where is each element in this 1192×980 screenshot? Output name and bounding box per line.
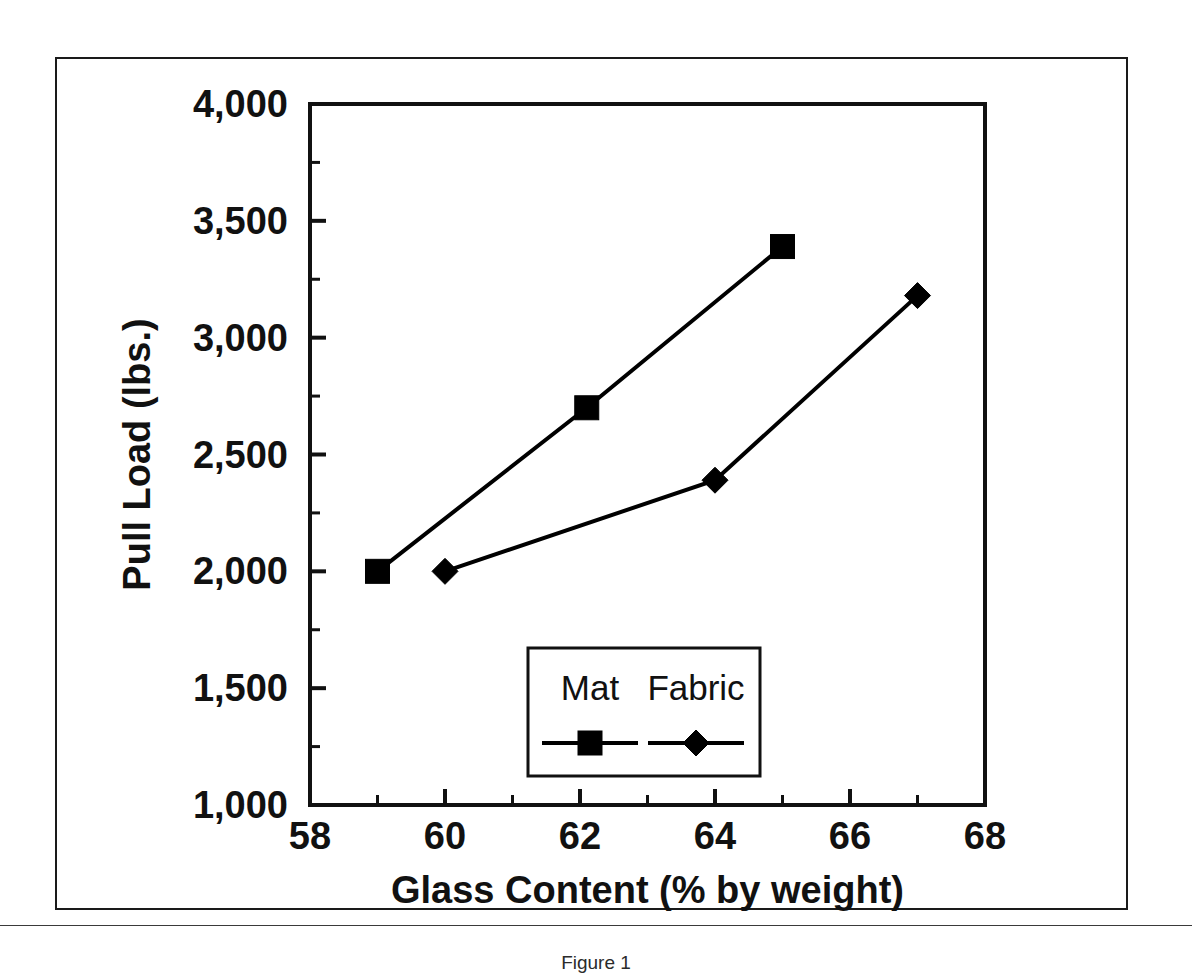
- legend-marker-mat: [578, 731, 602, 755]
- y-axis-tick-label: 2,000: [193, 550, 288, 592]
- data-point-fabric: [432, 558, 458, 584]
- x-axis-tick-label: 68: [964, 815, 1006, 857]
- caption-divider-line: [0, 925, 1192, 926]
- y-axis-tick-label: 2,500: [193, 434, 288, 476]
- x-axis-title: Glass Content (% by weight): [391, 869, 904, 911]
- data-point-mat: [366, 559, 390, 583]
- y-axis-tick-label: 1,000: [193, 784, 288, 826]
- figure-caption: Figure 1: [0, 952, 1192, 974]
- y-axis-tick-label: 1,500: [193, 667, 288, 709]
- data-point-mat: [771, 235, 795, 259]
- legend-label-fabric: Fabric: [647, 668, 744, 707]
- y-axis-tick-label: 4,000: [193, 83, 288, 125]
- legend-label-mat: Mat: [561, 668, 620, 707]
- data-point-mat: [575, 396, 599, 420]
- figure-root: 1,0001,5002,0002,5003,0003,5004,00058606…: [0, 0, 1192, 980]
- line-chart: 1,0001,5002,0002,5003,0003,5004,00058606…: [0, 0, 1192, 980]
- y-axis-tick-label: 3,000: [193, 317, 288, 359]
- series-line-fabric: [445, 296, 918, 572]
- y-axis-title: Pull Load (lbs.): [116, 318, 158, 590]
- x-axis-tick-label: 60: [424, 815, 466, 857]
- x-axis-tick-label: 62: [559, 815, 601, 857]
- x-axis-tick-label: 64: [694, 815, 736, 857]
- x-axis-tick-label: 66: [829, 815, 871, 857]
- y-axis-tick-label: 3,500: [193, 200, 288, 242]
- x-axis-tick-label: 58: [289, 815, 331, 857]
